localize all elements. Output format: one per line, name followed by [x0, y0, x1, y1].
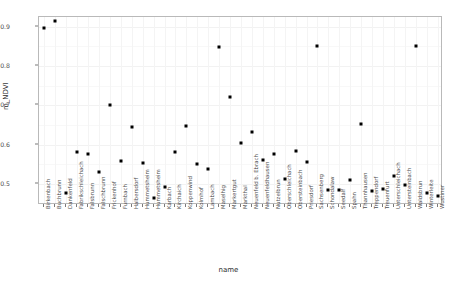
x-tick-label: Birkenbach: [45, 179, 51, 209]
scatter-plot: m_NDVI name 0.50.60.70.80.9BirkenbachBuc…: [0, 0, 457, 285]
gridline-major-x: [438, 17, 439, 203]
x-tick-mark: [153, 204, 154, 207]
gridline-major-x: [350, 17, 351, 203]
data-point: [207, 167, 210, 170]
x-tick-mark: [371, 204, 372, 207]
x-tick-label: Markthal: [242, 185, 248, 209]
x-tick-mark: [295, 204, 296, 207]
x-tick-mark: [120, 204, 121, 207]
x-tick-mark: [131, 204, 132, 207]
data-point: [316, 45, 319, 48]
data-point: [294, 149, 297, 152]
data-point: [272, 152, 275, 155]
x-tick-mark: [382, 204, 383, 207]
x-tick-mark: [109, 204, 110, 207]
x-tick-label: Waldsbrun: [417, 181, 423, 210]
x-tick-mark: [229, 204, 230, 207]
gridline-major-x: [274, 17, 275, 203]
gridline-major-x: [66, 17, 67, 203]
y-tick-mark: [35, 104, 38, 105]
data-point: [185, 124, 188, 127]
data-point: [54, 19, 57, 22]
y-tick-mark: [35, 183, 38, 184]
x-tick-label: Buchbrunn: [56, 180, 62, 209]
data-point: [305, 161, 308, 164]
x-tick-label: Halbersdorf: [133, 178, 139, 209]
data-point: [76, 150, 79, 153]
data-point: [43, 27, 46, 30]
x-tick-label: Oberschleichach: [286, 164, 292, 209]
gridline-major-x: [307, 17, 308, 203]
x-tick-mark: [164, 204, 165, 207]
y-tick-label: 0.6: [0, 140, 10, 147]
y-tick-mark: [35, 143, 38, 144]
x-tick-label: Winterleite: [428, 179, 434, 209]
x-tick-mark: [273, 204, 274, 207]
gridline-major-x: [175, 17, 176, 203]
y-tick-label: 0.5: [0, 180, 10, 187]
x-tick-label: Neuenfeldhausen: [264, 162, 270, 209]
x-tick-mark: [306, 204, 307, 207]
data-point: [414, 45, 417, 48]
y-tick-label: 0.8: [0, 62, 10, 69]
x-tick-label: Untersteinbach: [406, 168, 412, 209]
x-tick-mark: [218, 204, 219, 207]
gridline-major-x: [208, 17, 209, 203]
x-tick-label: Neuenfeld b. Ebrach: [253, 154, 259, 209]
y-tick-mark: [35, 65, 38, 66]
x-tick-label: Sachsenberg: [318, 174, 324, 209]
gridline-major-x: [132, 17, 133, 203]
x-tick-mark: [284, 204, 285, 207]
x-tick-label: Hummetsheim: [144, 169, 150, 209]
gridline-major-x: [427, 17, 428, 203]
data-point: [141, 162, 144, 165]
gridline-major-x: [383, 17, 384, 203]
x-tick-mark: [98, 204, 99, 207]
x-tick-label: Dankenfeld: [67, 178, 73, 209]
x-tick-label: Obersteinbach: [297, 170, 303, 209]
x-tick-label: Falsbrunn: [89, 183, 95, 209]
x-tick-label: Frickenhof: [111, 181, 117, 209]
gridline-major-x: [121, 17, 122, 203]
gridline-major-x: [372, 17, 373, 203]
x-tick-label: Karbach: [166, 187, 172, 209]
x-tick-label: Markertgut: [231, 179, 237, 209]
x-tick-label: Kirchaich: [176, 184, 182, 209]
gridline-major-x: [328, 17, 329, 203]
x-tick-label: Thannhausen: [362, 172, 368, 209]
data-point: [360, 122, 363, 125]
x-tick-label: Priesdorf: [308, 185, 314, 209]
x-tick-mark: [251, 204, 252, 207]
x-tick-mark: [87, 204, 88, 207]
x-tick-label: Treppendorf: [373, 177, 379, 209]
data-point: [130, 126, 133, 129]
x-tick-label: Nutzelbrun: [275, 179, 281, 209]
gridline-major-x: [44, 17, 45, 203]
x-tick-mark: [240, 204, 241, 207]
x-tick-label: Maselhig: [220, 185, 226, 209]
x-tick-label: Treuenfurt: [384, 181, 390, 209]
x-tick-label: Furnbach: [122, 184, 128, 209]
x-tick-label: Fabrikschleichach: [78, 161, 84, 209]
gridline-major-x: [197, 17, 198, 203]
gridline-major-x: [339, 17, 340, 203]
data-point: [119, 160, 122, 163]
gridline-major-x: [230, 17, 231, 203]
data-point: [240, 142, 243, 145]
x-tick-mark: [415, 204, 416, 207]
x-tick-label: Spahn: [351, 192, 357, 209]
gridline-major-x: [88, 17, 89, 203]
x-tick-mark: [262, 204, 263, 207]
x-tick-label: Hummetsheim: [155, 169, 161, 209]
y-tick-label: 0.9: [0, 22, 10, 29]
gridline-major-x: [110, 17, 111, 203]
x-tick-mark: [404, 204, 405, 207]
data-point: [87, 152, 90, 155]
x-tick-label: Lambach: [209, 184, 215, 209]
gridline-major-x: [99, 17, 100, 203]
data-point: [196, 163, 199, 166]
x-tick-label: Falschbrunn: [100, 177, 106, 209]
y-tick-label: 0.7: [0, 101, 10, 108]
gridline-major-x: [241, 17, 242, 203]
data-point: [250, 130, 253, 133]
